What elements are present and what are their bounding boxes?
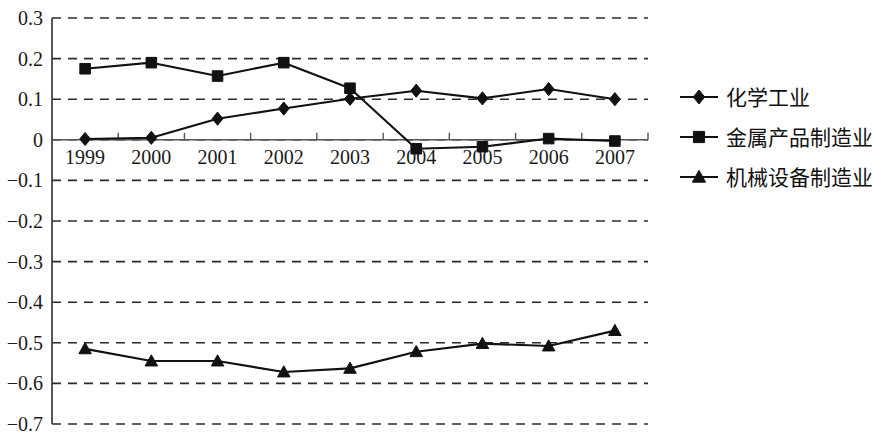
x-tick-label: 2007 xyxy=(595,146,635,168)
y-tick-label: 0 xyxy=(33,129,43,151)
x-tick-label: 2001 xyxy=(198,146,238,168)
y-tick-label: 0.3 xyxy=(18,7,43,29)
y-tick-label: −0.3 xyxy=(7,251,43,273)
y-tick-label: 0.2 xyxy=(18,48,43,70)
legend-label: 机械设备制造业 xyxy=(726,166,872,189)
legend-item-1: 化学工业 xyxy=(680,86,810,109)
x-tick-label: 2006 xyxy=(529,146,569,168)
legend-marker-diamond-icon xyxy=(693,90,704,104)
data-point-diamond xyxy=(477,92,488,105)
data-point-square xyxy=(345,83,356,94)
data-point-diamond xyxy=(146,131,157,144)
y-tick-label: −0.4 xyxy=(7,291,43,313)
data-point-diamond xyxy=(609,93,620,106)
line-chart: 0.30.20.10−0.1−0.2−0.3−0.4−0.5−0.6−0.7 1… xyxy=(0,0,872,434)
legend-label: 化学工业 xyxy=(726,86,810,109)
data-point-square xyxy=(212,71,223,82)
legend-label: 金属产品制造业 xyxy=(726,126,872,149)
data-point-triangle xyxy=(609,324,622,335)
legend: 化学工业金属产品制造业机械设备制造业 xyxy=(680,86,872,189)
y-tick-label: −0.1 xyxy=(7,169,43,191)
y-tick-label: 0.1 xyxy=(18,88,43,110)
data-point-square xyxy=(278,57,289,68)
data-point-square xyxy=(411,143,422,154)
x-tick-label: 2002 xyxy=(264,146,304,168)
data-point-square xyxy=(80,63,91,74)
data-point-diamond xyxy=(212,112,223,125)
data-point-diamond xyxy=(345,92,356,105)
data-point-diamond xyxy=(80,132,91,145)
legend-marker-square-icon xyxy=(693,131,704,142)
x-tick-label: 1999 xyxy=(65,146,105,168)
data-point-diamond xyxy=(543,82,554,95)
data-point-square xyxy=(146,57,157,68)
x-axis-tick-labels: 199920002001200220032004200520062007 xyxy=(65,146,635,168)
y-tick-label: −0.5 xyxy=(7,332,43,354)
x-tick-label: 2003 xyxy=(330,146,370,168)
legend-item-3: 机械设备制造业 xyxy=(680,166,872,189)
y-tick-label: −0.6 xyxy=(7,372,43,394)
x-tick-label: 2000 xyxy=(131,146,171,168)
data-point-triangle xyxy=(79,343,92,354)
y-tick-label: −0.7 xyxy=(7,413,43,434)
chart-canvas: 0.30.20.10−0.1−0.2−0.3−0.4−0.5−0.6−0.7 1… xyxy=(0,0,872,434)
data-point-square xyxy=(543,133,554,144)
data-point-diamond xyxy=(411,84,422,97)
data-series-group xyxy=(79,57,621,377)
data-point-diamond xyxy=(278,102,289,115)
data-point-square xyxy=(477,141,488,152)
y-tick-label: −0.2 xyxy=(7,210,43,232)
series-3 xyxy=(79,324,621,377)
y-axis-tick-labels: 0.30.20.10−0.1−0.2−0.3−0.4−0.5−0.6−0.7 xyxy=(7,7,43,434)
data-point-square xyxy=(610,136,621,147)
legend-item-2: 金属产品制造业 xyxy=(680,126,872,149)
